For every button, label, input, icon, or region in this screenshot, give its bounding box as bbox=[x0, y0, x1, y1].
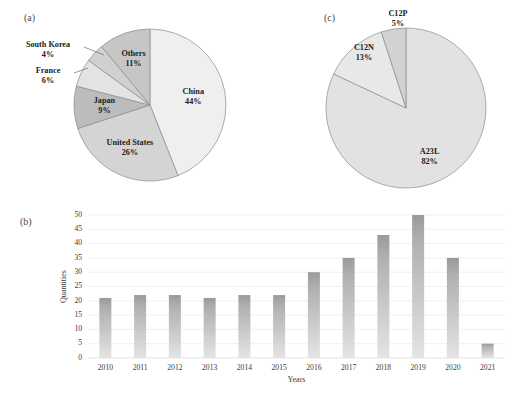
bar-x-tick-2010: 2010 bbox=[98, 363, 113, 372]
bar-y-tick-15: 15 bbox=[74, 310, 82, 319]
pie-c-label-a23l: A23L bbox=[420, 147, 440, 156]
pie-a-value-japan: 9% bbox=[98, 106, 110, 115]
bar-y-tick-10: 10 bbox=[74, 324, 82, 333]
bar-y-axis-title: Quantities bbox=[59, 270, 68, 303]
bar-x-axis-title: Years bbox=[288, 375, 306, 384]
bar-y-tick-45: 45 bbox=[74, 224, 82, 233]
bar-x-tick-2021: 2021 bbox=[480, 363, 495, 372]
bar-y-tick-35: 35 bbox=[74, 253, 82, 262]
bar-2013 bbox=[204, 298, 216, 358]
pie-chart-c: A23L82%C12N13%C12P5% bbox=[278, 0, 522, 200]
bar-2017 bbox=[343, 258, 355, 358]
bar-x-tick-2016: 2016 bbox=[306, 363, 321, 372]
bar-y-tick-20: 20 bbox=[74, 296, 82, 305]
bar-2014 bbox=[238, 295, 250, 358]
bar-x-tick-2014: 2014 bbox=[237, 363, 252, 372]
bar-x-tick-2020: 2020 bbox=[445, 363, 460, 372]
pie-c-value-c12p: 5% bbox=[392, 19, 404, 28]
bar-y-tick-50: 50 bbox=[74, 210, 82, 219]
pie-c-value-a23l: 82% bbox=[421, 157, 437, 166]
pie-a-label-france: France bbox=[36, 66, 61, 75]
bar-y-tick-5: 5 bbox=[78, 338, 82, 347]
bar-y-tick-30: 30 bbox=[74, 267, 82, 276]
bar-2016 bbox=[308, 272, 320, 358]
bar-2011 bbox=[134, 295, 146, 358]
pie-a-label-china: China bbox=[183, 87, 204, 96]
bar-b-svg: 05101520253035404550 2010201120122013201… bbox=[0, 200, 522, 408]
bar-x-tick-2013: 2013 bbox=[202, 363, 217, 372]
bar-2015 bbox=[273, 295, 285, 358]
pie-a-svg: China44%United States26%Japan9%France6%S… bbox=[0, 0, 280, 200]
pie-a-label-others: Others bbox=[121, 49, 145, 58]
bar-y-tick-0: 0 bbox=[78, 353, 82, 362]
pie-c-label-c12p: C12P bbox=[388, 9, 407, 18]
pie-a-label-japan: Japan bbox=[94, 96, 116, 105]
figure-panel-group: (a) (c) (b) China44%United States26%Japa… bbox=[0, 0, 522, 408]
pie-a-value-china: 44% bbox=[185, 97, 201, 106]
pie-c-svg: A23L82%C12N13%C12P5% bbox=[278, 0, 522, 200]
pie-c-slice-group bbox=[326, 28, 486, 188]
bar-chart-b: 05101520253035404550 2010201120122013201… bbox=[0, 200, 522, 408]
bar-x-tick-2015: 2015 bbox=[272, 363, 287, 372]
pie-chart-a: China44%United States26%Japan9%France6%S… bbox=[0, 0, 280, 200]
bar-2010 bbox=[99, 298, 111, 358]
bar-2012 bbox=[169, 295, 181, 358]
pie-a-label-united-states: United States bbox=[107, 138, 154, 147]
bar-y-tick-labels: 05101520253035404550 bbox=[74, 210, 82, 362]
bar-x-tick-2019: 2019 bbox=[411, 363, 426, 372]
bar-x-tick-2011: 2011 bbox=[133, 363, 148, 372]
bar-2021 bbox=[482, 344, 494, 358]
bar-2018 bbox=[377, 235, 389, 358]
bar-y-tick-40: 40 bbox=[74, 238, 82, 247]
pie-c-label-c12n: C12N bbox=[354, 43, 374, 52]
bar-gridlines bbox=[88, 215, 505, 358]
bar-x-tick-2018: 2018 bbox=[376, 363, 391, 372]
pie-c-value-c12n: 13% bbox=[356, 53, 372, 62]
pie-a-label-south-korea: South Korea bbox=[26, 40, 70, 49]
pie-a-value-south-korea: 4% bbox=[42, 50, 54, 59]
pie-a-value-others: 11% bbox=[126, 59, 142, 68]
bar-x-tick-2017: 2017 bbox=[341, 363, 356, 372]
pie-a-value-united-states: 26% bbox=[122, 148, 138, 157]
pie-a-value-france: 6% bbox=[42, 76, 54, 85]
bar-x-tick-2012: 2012 bbox=[167, 363, 182, 372]
bar-2020 bbox=[447, 258, 459, 358]
bar-y-tick-25: 25 bbox=[74, 281, 82, 290]
bar-x-tick-labels: 2010201120122013201420152016201720182019… bbox=[98, 363, 496, 372]
bar-2019 bbox=[412, 215, 424, 358]
